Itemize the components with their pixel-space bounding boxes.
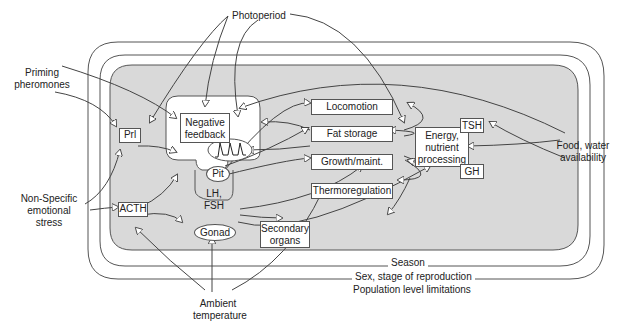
node-gh: GH	[460, 164, 484, 179]
node-prl: Prl	[119, 128, 141, 143]
label-nonspecific-stress: Non-Specific emotional stress	[18, 193, 80, 229]
label-food-water: Food, water availability	[553, 140, 613, 164]
node-gonad: Gonad	[194, 224, 236, 241]
node-locomotion: Locomotion	[311, 99, 393, 115]
node-secondary-organs: Secondary organs	[260, 221, 310, 248]
node-fat-storage: Fat storage	[311, 126, 393, 142]
node-acth: ACTH	[118, 202, 148, 217]
node-pit: Pit	[206, 166, 230, 182]
label-season: Season	[388, 257, 428, 268]
label-sex-stage: Sex, stage of reproduction	[352, 271, 475, 282]
label-photoperiod: Photoperiod	[232, 10, 286, 22]
node-growth-maint: Growth/maint.	[311, 154, 393, 170]
node-thermoregulation: Thermoregulation	[311, 183, 393, 199]
node-negative-feedback: Negative feedback	[180, 113, 230, 143]
label-ambient-temperature: Ambient temperature	[193, 298, 243, 322]
label-population: Population level limitations	[350, 284, 474, 295]
diagram-canvas	[0, 0, 618, 333]
node-lh-fsh: LH, FSH	[202, 188, 226, 212]
node-energy-processing: Energy, nutrient processing	[415, 127, 469, 167]
node-tsh: TSH	[460, 118, 484, 133]
label-priming-pheromones: Priming pheromones	[14, 67, 70, 91]
